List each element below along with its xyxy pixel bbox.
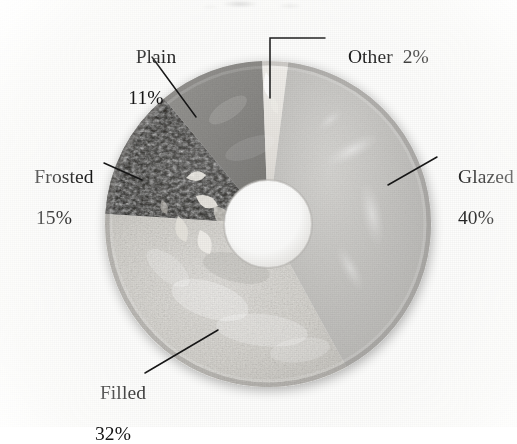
callout-name-plain: Plain bbox=[136, 46, 177, 67]
callout-pct-frosted: 15% bbox=[6, 208, 102, 229]
callout-name-filled: Filled bbox=[100, 382, 146, 403]
callout-pct-plain: 11% bbox=[104, 88, 188, 109]
callout-label-filled: Filled 32% bbox=[80, 362, 146, 444]
callout-label-frosted: Frosted 15% bbox=[6, 146, 102, 270]
callout-text-other: Other 2% bbox=[348, 46, 429, 67]
callout-name-glazed: Glazed bbox=[458, 166, 514, 187]
callout-label-glazed: Glazed 40% bbox=[438, 146, 514, 270]
callout-label-other: Other 2% bbox=[328, 26, 429, 88]
callout-label-plain: Plain 11% bbox=[104, 26, 188, 150]
callout-name-frosted: Frosted bbox=[34, 166, 93, 187]
callout-pct-filled: 32% bbox=[80, 424, 146, 444]
callout-pct-glazed: 40% bbox=[438, 208, 514, 229]
